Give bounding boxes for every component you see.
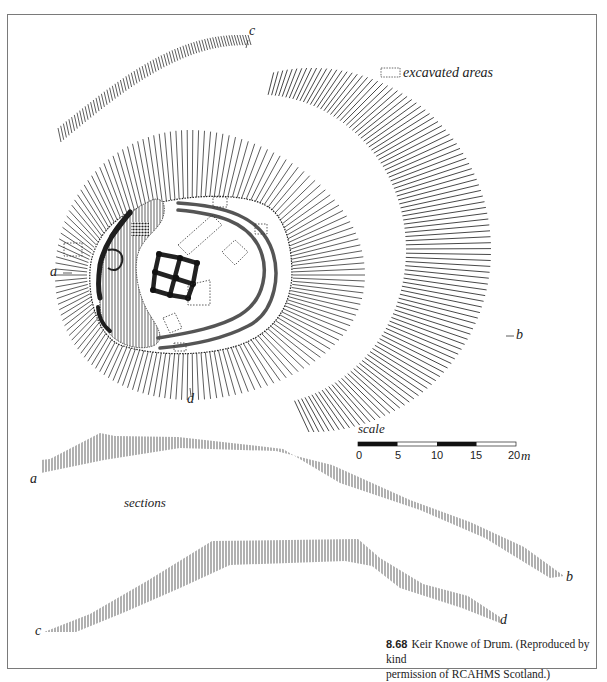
scale-tick-20: 20 — [508, 450, 520, 461]
section-marker-a: a — [50, 265, 57, 279]
scale-tick-15: 15 — [470, 450, 482, 461]
outer-bank-c-hachures — [58, 35, 251, 142]
figure-number: 8.68 — [386, 638, 407, 650]
scale-tick-10: 10 — [431, 450, 443, 461]
sections-label: sections — [124, 496, 166, 509]
legend-excavated-symbol — [381, 68, 400, 77]
legend-excavated-label: excavated areas — [403, 66, 493, 80]
scale-bar — [358, 442, 516, 446]
section-marker-d: d — [187, 392, 194, 406]
caption-line-1: Keir Knowe of Drum. (Reproduced by kind — [386, 638, 590, 665]
section-label-d: d — [500, 613, 507, 627]
outer-bank-b-hachures — [268, 68, 491, 432]
section-label-b: b — [566, 570, 573, 584]
scale-unit: m — [521, 449, 530, 462]
rubble-patch — [131, 222, 149, 236]
section-label-c: c — [35, 624, 41, 638]
section-marker-b: b — [516, 328, 523, 342]
section-cd-profile — [44, 539, 500, 632]
caption-line-2: permission of RCAHMS Scotland.) — [386, 668, 550, 680]
scale-title: scale — [358, 422, 385, 435]
section-marker-c: c — [249, 24, 255, 38]
section-label-a: a — [30, 472, 37, 486]
scale-tick-5: 5 — [395, 450, 401, 461]
scale-tick-0: 0 — [356, 450, 362, 461]
figure-caption: 8.68Keir Knowe of Drum. (Reproduced by k… — [386, 637, 596, 682]
